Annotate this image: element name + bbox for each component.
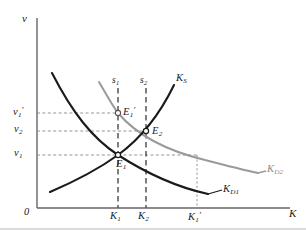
curve-label-kd1-sub: D1: [230, 188, 239, 196]
curve-label-ks-base: K: [176, 72, 183, 83]
x-tick-k1: K1: [110, 211, 121, 223]
capital-demand-curve-1: [52, 73, 208, 194]
y-tick-v2-base: v: [14, 123, 19, 134]
leader-line-kd1: [208, 190, 222, 194]
x-tick-k2-base: K: [138, 210, 145, 221]
leader-line-kd2: [258, 171, 266, 173]
point-label-e2: E2: [152, 126, 162, 138]
chart-canvas: [0, 0, 306, 239]
origin-label: 0: [24, 207, 29, 218]
shift-label-s1-sub: 1: [116, 79, 120, 86]
x-tick-k1-prime-mark: ′: [199, 210, 201, 220]
curve-label-ks-sub: S: [183, 77, 187, 85]
curve-label-ks: KS: [176, 73, 187, 85]
point-label-e1-prime-mark: ′: [133, 105, 135, 115]
point-label-e1-sub: 1: [122, 163, 126, 171]
x-tick-k2-sub: 2: [145, 215, 149, 223]
supply-demand-figure: v K 0 v1′ v2 v1 K1 K2 K1′ KS KD1 KD2 E1 …: [0, 0, 306, 239]
y-tick-v2: v2: [14, 124, 23, 136]
equilibrium-1-marker: [115, 152, 120, 157]
equilibrium-2-marker: [143, 128, 148, 133]
x-tick-k2: K2: [138, 211, 149, 223]
y-tick-v1-prime-mark: ′: [22, 105, 24, 115]
y-tick-v1-base: v: [14, 147, 19, 158]
point-label-e1-prime: E1′: [123, 106, 135, 119]
curve-label-kd2: KD2: [267, 164, 283, 176]
point-label-e1: E1: [116, 159, 126, 171]
curve-label-kd1-base: K: [223, 183, 230, 194]
y-tick-v1-sub: 1: [19, 152, 23, 160]
y-tick-v1: v1: [14, 148, 23, 160]
shift-label-s1: s1: [112, 76, 119, 86]
y-axis-label: v: [22, 13, 27, 24]
curve-label-kd2-base: K: [267, 163, 274, 174]
x-axis-label: K: [289, 208, 296, 219]
shift-label-s2: s2: [140, 76, 147, 86]
x-tick-k1-base: K: [110, 210, 117, 221]
curve-label-kd1: KD1: [223, 184, 239, 196]
curve-label-kd2-sub: D2: [274, 168, 283, 176]
x-tick-k1-sub: 1: [117, 215, 121, 223]
y-tick-v1-prime-base: v: [13, 106, 18, 117]
point-label-e2-sub: 2: [158, 130, 162, 138]
shift-label-s2-sub: 2: [144, 79, 148, 86]
y-tick-v2-sub: 2: [19, 128, 23, 136]
x-tick-k1-prime: K1′: [188, 211, 201, 224]
x-tick-k1-prime-base: K: [188, 211, 195, 222]
y-tick-v1-prime: v1′: [13, 106, 23, 119]
equilibrium-1-prime-marker: [115, 110, 120, 115]
